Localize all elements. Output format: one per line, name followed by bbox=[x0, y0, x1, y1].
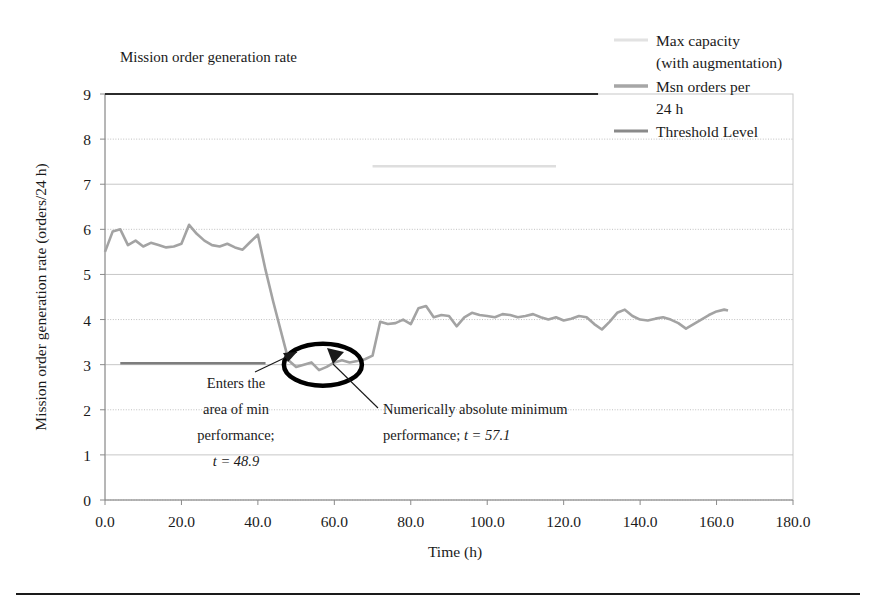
annot2-line2-prefix: performance; bbox=[383, 427, 464, 443]
x-tick-label-0.0: 0.0 bbox=[95, 513, 115, 530]
x-tick-label-140.0: 140.0 bbox=[623, 513, 658, 530]
x-tick-label-60.0: 60.0 bbox=[321, 513, 348, 530]
y-tick-label-0: 0 bbox=[83, 492, 91, 509]
y-tick-label-1: 1 bbox=[83, 447, 91, 464]
y-tick-label-2: 2 bbox=[83, 402, 91, 419]
annot1-line2: area of min bbox=[203, 401, 270, 417]
legend-label-msn-orders-line1: Msn orders per bbox=[656, 78, 751, 95]
x-tick-label-180.0: 180.0 bbox=[776, 513, 811, 530]
x-tick-label-120.0: 120.0 bbox=[546, 513, 581, 530]
legend-label-max-capacity-line1: Max capacity bbox=[656, 32, 740, 49]
y-tick-label-3: 3 bbox=[83, 357, 91, 374]
annot1-line4-t-value: t = 48.9 bbox=[213, 453, 260, 469]
annot2-line1: Numerically absolute minimum bbox=[383, 401, 568, 417]
x-axis-title: Time (h) bbox=[428, 543, 482, 561]
x-tick-label-20.0: 20.0 bbox=[168, 513, 195, 530]
chart-title: Mission order generation rate bbox=[120, 49, 297, 65]
annot2-line2-t-value: t = 57.1 bbox=[464, 427, 510, 443]
y-axis-title: Mission order generation rate (orders/24… bbox=[32, 163, 50, 430]
y-tick-label-7: 7 bbox=[83, 176, 91, 193]
legend-label-msn-orders-line2: 24 h bbox=[656, 100, 683, 117]
mission-order-generation-rate-chart: 0123456789 0.020.040.060.080.0100.0120.0… bbox=[0, 0, 875, 605]
legend-label-threshold-level: Threshold Level bbox=[656, 123, 758, 140]
y-tick-label-5: 5 bbox=[83, 266, 91, 283]
annot1-line1: Enters the bbox=[207, 375, 265, 391]
y-tick-label-6: 6 bbox=[83, 221, 91, 238]
x-tick-label-40.0: 40.0 bbox=[244, 513, 271, 530]
figure-container: 0123456789 0.020.040.060.080.0100.0120.0… bbox=[0, 0, 875, 605]
annot1-line3: performance; bbox=[197, 427, 274, 443]
legend-label-max-capacity-line2: (with augmentation) bbox=[656, 54, 782, 72]
annot2-line2: performance; t = 57.1 bbox=[383, 427, 510, 443]
y-tick-label-8: 8 bbox=[83, 131, 91, 148]
y-tick-label-9: 9 bbox=[83, 86, 91, 103]
x-tick-label-80.0: 80.0 bbox=[397, 513, 424, 530]
y-tick-label-4: 4 bbox=[83, 312, 91, 329]
x-tick-label-160.0: 160.0 bbox=[699, 513, 734, 530]
x-tick-label-100.0: 100.0 bbox=[470, 513, 505, 530]
